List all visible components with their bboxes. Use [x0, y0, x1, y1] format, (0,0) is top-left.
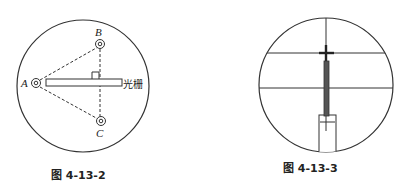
- grating-bar: [46, 79, 122, 86]
- target-point-b: [96, 40, 105, 49]
- vertical-rod: [324, 61, 329, 116]
- figure-4-13-3: 图 4-13-3: [200, 0, 403, 190]
- figure-4-13-2: A B C 光栅 图 4-13-2: [0, 0, 200, 190]
- target-point-a: [32, 79, 41, 88]
- cross-mark: [319, 45, 334, 61]
- point-label-c: C: [96, 127, 103, 139]
- base-rectangle: [319, 115, 336, 155]
- figure-caption: 图 4-13-3: [283, 159, 338, 175]
- point-label-b: B: [95, 26, 102, 38]
- target-point-c: [97, 117, 106, 126]
- dashed-line-ac: [40, 87, 98, 119]
- figure-caption: 图 4-13-2: [51, 166, 106, 182]
- grating-label: 光栅: [123, 76, 143, 91]
- right-angle-marker: [92, 72, 99, 79]
- point-label-a: A: [21, 77, 28, 89]
- dashed-line-ab: [40, 47, 98, 80]
